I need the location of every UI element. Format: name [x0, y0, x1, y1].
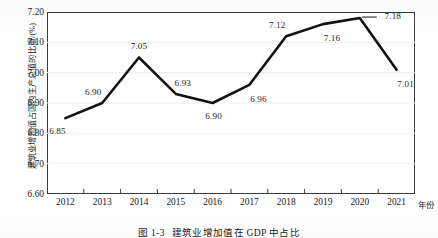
data-point-label: 6.90 — [205, 111, 221, 121]
x-axis-tick-labels: 2012201320142015201620172018201920202021 — [47, 197, 415, 211]
x-axis-tick-label: 2020 — [350, 197, 369, 207]
x-axis-tick-label: 2018 — [277, 197, 296, 207]
figure-caption: 图 1-3建筑业增加值在 GDP 中占比 — [0, 225, 438, 238]
y-axis-tick-label: 6.80 — [4, 128, 44, 138]
data-point-label: 7.18 — [385, 11, 401, 21]
x-axis-tick-label: 2014 — [130, 197, 149, 207]
figure-building-industry-gdp-share: 建筑业增加值占国内生产总值的比重/(%) 6.606.706.806.907.0… — [0, 0, 438, 238]
x-axis-tick-label: 2015 — [166, 197, 185, 207]
data-point-label: 7.01 — [397, 79, 413, 89]
y-axis-tick-labels: 6.606.706.806.907.007.107.20 — [0, 12, 44, 194]
data-point-label: 6.93 — [175, 78, 191, 88]
data-point-label: 7.16 — [324, 33, 340, 43]
y-axis-tick-label: 6.70 — [4, 159, 44, 169]
x-axis-tick-label: 2013 — [93, 197, 112, 207]
plot-area: 6.856.907.056.936.906.967.127.167.187.01 — [47, 12, 415, 194]
x-axis-tick-label: 2019 — [314, 197, 333, 207]
data-point-label: 6.90 — [85, 87, 101, 97]
y-axis-tick-label: 7.10 — [4, 37, 44, 47]
data-point-label: 7.05 — [131, 41, 147, 51]
x-axis-tick-label: 2017 — [240, 197, 259, 207]
y-axis-tick-label: 6.90 — [4, 98, 44, 108]
x-axis-tick-label: 2016 — [203, 197, 222, 207]
y-axis-tick-label: 6.60 — [4, 189, 44, 199]
x-axis-unit-label: 年份 — [418, 198, 434, 210]
data-point-label: 6.96 — [250, 94, 266, 104]
figure-caption-number: 图 1-3 — [138, 227, 165, 238]
figure-caption-text: 建筑业增加值在 GDP 中占比 — [172, 227, 300, 238]
x-axis-tick-label: 2021 — [387, 197, 406, 207]
line-chart-svg — [47, 12, 415, 194]
y-axis-tick-label: 7.00 — [4, 68, 44, 78]
data-point-label: 7.12 — [269, 20, 285, 30]
data-point-label: 6.85 — [49, 126, 65, 136]
y-axis-tick-label: 7.20 — [4, 7, 44, 17]
x-axis-tick-label: 2012 — [56, 197, 75, 207]
